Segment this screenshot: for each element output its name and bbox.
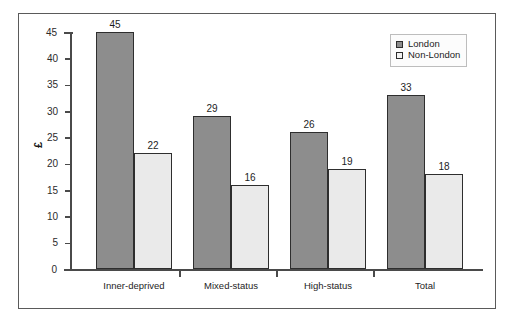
bar-non-london-high-status: 19	[328, 169, 366, 269]
y-tick-35: 35	[65, 85, 72, 87]
bar-value-label: 16	[244, 173, 255, 183]
y-tick-0: 0	[64, 269, 73, 271]
y-tick-45: 45	[64, 32, 73, 34]
bar-london-total: 33	[387, 95, 425, 269]
y-axis-title: £	[32, 142, 44, 148]
bar-value-label: 18	[438, 162, 449, 172]
y-axis-line	[70, 32, 72, 269]
bar-value-label: 26	[303, 120, 314, 130]
legend-item-london: London	[396, 39, 460, 49]
legend-swatch-icon-london	[396, 41, 403, 48]
x-group-separator-2	[276, 269, 278, 277]
legend-label-non-london: Non-London	[408, 50, 460, 60]
bar-value-label: 22	[147, 141, 158, 151]
bar-non-london-inner-deprived: 22	[134, 153, 172, 269]
bar-london-high-status: 26	[290, 132, 328, 269]
bar-value-label: 29	[206, 104, 217, 114]
y-tick-25: 25	[65, 137, 72, 139]
y-tick-10: 10	[65, 216, 72, 218]
x-category-label-total: Total	[415, 280, 435, 291]
legend-item-non-london: Non-London	[396, 50, 460, 60]
y-tick-5: 5	[65, 243, 72, 245]
y-tick-30: 30	[65, 111, 72, 113]
x-category-label-inner-deprived: Inner-deprived	[103, 280, 164, 291]
x-group-separator-3	[373, 269, 375, 277]
bar-non-london-mixed-status: 16	[231, 185, 269, 269]
bar-value-label: 45	[109, 20, 120, 30]
bar-london-inner-deprived: 45	[96, 32, 134, 269]
chart-legend: London Non-London	[390, 34, 467, 67]
bar-non-london-total: 18	[425, 174, 463, 269]
legend-swatch-icon-non-london	[396, 52, 403, 59]
bar-value-label: 33	[400, 83, 411, 93]
plot-area: 0 5 10 15 20 25 30 35 40 45	[70, 32, 485, 269]
bar-london-mixed-status: 29	[193, 116, 231, 269]
chart-figure: £ 0 5 10 15 20 25 30 35 40	[0, 0, 515, 330]
y-tick-40: 40	[65, 58, 72, 60]
legend-label-london: London	[408, 39, 440, 49]
y-tick-20: 20	[65, 164, 72, 166]
x-category-label-high-status: High-status	[304, 280, 352, 291]
x-group-separator-1	[179, 269, 181, 277]
x-category-label-mixed-status: Mixed-status	[204, 280, 258, 291]
bar-value-label: 19	[341, 157, 352, 167]
y-tick-15: 15	[65, 190, 72, 192]
